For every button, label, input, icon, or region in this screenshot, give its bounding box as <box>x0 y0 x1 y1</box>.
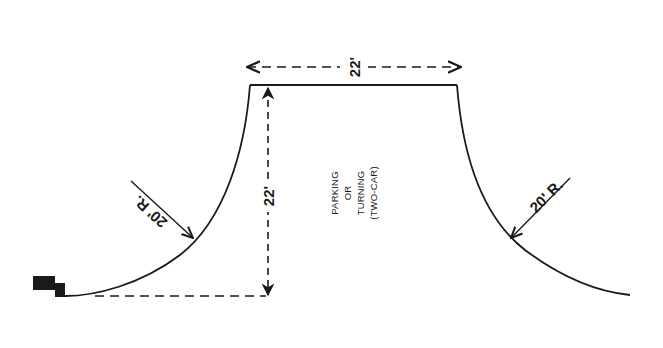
curb-block-lower <box>55 283 65 297</box>
area-label-line-1: PARKING <box>329 171 340 214</box>
area-label: PARKING OR TURNING (TWO-CAR) <box>329 166 379 220</box>
width-dimension-label: 22' <box>346 57 363 77</box>
turnaround-diagram: 22' 22' 20' R. 20' R. PARKING OR TURNING… <box>0 0 663 348</box>
area-label-line-3: TURNING <box>355 171 366 216</box>
left-curve <box>65 85 250 296</box>
area-label-line-4: (TWO-CAR) <box>368 166 379 220</box>
depth-dimension-label: 22' <box>260 186 277 206</box>
area-label-line-2: OR <box>342 186 353 201</box>
right-radius-label: 20' R. <box>526 176 566 216</box>
